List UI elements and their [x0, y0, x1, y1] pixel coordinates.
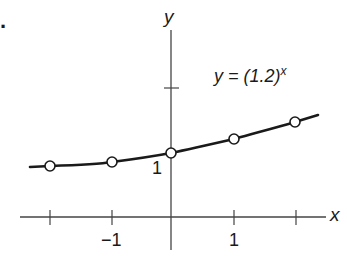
data-point: [45, 161, 55, 171]
exponential-curve: [30, 115, 318, 167]
x-tick-label-1: 1: [229, 230, 239, 251]
data-points: [45, 117, 300, 171]
figure-bullet: .: [0, 8, 6, 34]
x-axis-label: x: [330, 204, 340, 226]
equation-label: y = (1.2)x: [214, 64, 287, 87]
data-point: [229, 134, 239, 144]
equation-text: y = (1.2): [214, 66, 281, 86]
x-tick-label-neg1: −1: [101, 230, 122, 251]
y-tick-label-1: 1: [152, 158, 162, 179]
y-axis-label: y: [164, 6, 174, 28]
data-point: [166, 148, 176, 158]
data-point: [290, 117, 300, 127]
exponential-graph: [0, 0, 347, 265]
data-point: [107, 157, 117, 167]
equation-exponent: x: [281, 64, 287, 78]
